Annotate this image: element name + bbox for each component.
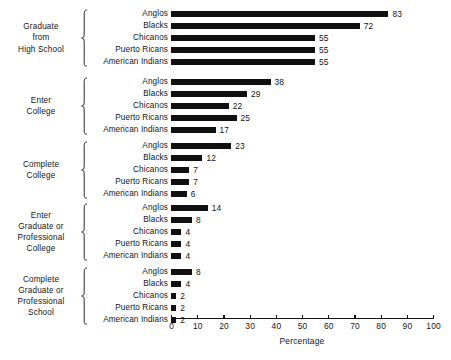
bar-row: American Indians4 (0, 250, 451, 262)
bar (171, 179, 189, 184)
bar-row: Puerto Ricans55 (0, 44, 451, 56)
category-label: American Indians (92, 124, 168, 136)
bar (171, 191, 187, 196)
axis-tick (433, 315, 434, 320)
chart-group: CompleteCollegeAnglos23Blacks12Chicanos7… (0, 140, 451, 200)
axis-tick-label: 30 (245, 321, 255, 332)
bar (171, 91, 247, 96)
bar (171, 23, 360, 28)
bar-chart: GraduatefromHigh SchoolAnglos83Blacks72C… (0, 0, 451, 360)
bar-row: Anglos14 (0, 202, 451, 214)
bar-row: Anglos38 (0, 76, 451, 88)
x-axis-label: Percentage (171, 336, 433, 346)
bar-value-label: 4 (185, 238, 190, 250)
category-label: American Indians (92, 56, 168, 68)
bar-value-label: 2 (180, 302, 185, 314)
category-label: Puerto Ricans (92, 176, 168, 188)
axis-tick-label: 80 (376, 321, 386, 332)
bar-row: American Indians6 (0, 188, 451, 200)
axis-tick (223, 315, 224, 320)
category-label: American Indians (92, 188, 168, 200)
x-axis: 0102030405060708090100 Percentage (0, 318, 451, 360)
axis-tick (197, 315, 198, 320)
bar-value-label: 6 (191, 188, 196, 200)
bar (171, 253, 181, 258)
axis-tick (354, 315, 355, 320)
category-label: Anglos (92, 8, 168, 20)
category-label: Anglos (92, 202, 168, 214)
axis-tick-label: 50 (298, 321, 308, 332)
bar (171, 47, 315, 52)
bar-value-label: 55 (319, 32, 329, 44)
bar-value-label: 2 (180, 290, 185, 302)
bar-value-label: 55 (319, 44, 329, 56)
axis-tick-label: 40 (272, 321, 282, 332)
chart-group: EnterCollegeAnglos38Blacks29Chicanos22Pu… (0, 76, 451, 136)
bar (171, 127, 216, 132)
category-label: Blacks (92, 152, 168, 164)
category-label: Blacks (92, 278, 168, 290)
bar-row: Puerto Ricans4 (0, 238, 451, 250)
axis-tick (250, 315, 251, 320)
bar-value-label: 25 (241, 112, 251, 124)
bar-row: Blacks8 (0, 214, 451, 226)
bar-value-label: 4 (185, 278, 190, 290)
bar (171, 217, 192, 222)
chart-group: EnterGraduate orProfessionalCollegeAnglo… (0, 202, 451, 262)
bar-value-label: 17 (220, 124, 230, 136)
axis-tick (276, 315, 277, 320)
bar-value-label: 72 (364, 20, 374, 32)
bar-row: Chicanos55 (0, 32, 451, 44)
category-label: Chicanos (92, 100, 168, 112)
category-label: Chicanos (92, 290, 168, 302)
bar-row: Anglos8 (0, 266, 451, 278)
axis-tick (328, 315, 329, 320)
category-label: Puerto Ricans (92, 302, 168, 314)
bar-row: Blacks4 (0, 278, 451, 290)
category-label: American Indians (92, 250, 168, 262)
bar-row: Puerto Ricans7 (0, 176, 451, 188)
axis-tick-label: 0 (169, 321, 174, 332)
axis-tick (171, 315, 172, 320)
bar (171, 205, 208, 210)
bar (171, 305, 176, 310)
axis-tick-label: 70 (350, 321, 360, 332)
bar-row: American Indians55 (0, 56, 451, 68)
bar-row: Chicanos7 (0, 164, 451, 176)
category-label: Chicanos (92, 164, 168, 176)
bar-value-label: 22 (233, 100, 243, 112)
bar-value-label: 14 (212, 202, 222, 214)
category-label: Puerto Ricans (92, 112, 168, 124)
bar-value-label: 4 (185, 250, 190, 262)
bar-row: Anglos23 (0, 140, 451, 152)
bar-value-label: 7 (193, 164, 198, 176)
category-label: Puerto Ricans (92, 44, 168, 56)
bar (171, 167, 189, 172)
category-label: Blacks (92, 20, 168, 32)
bar (171, 155, 202, 160)
category-label: Blacks (92, 214, 168, 226)
bar (171, 79, 271, 84)
bar-row: Chicanos2 (0, 290, 451, 302)
bar-value-label: 38 (275, 76, 285, 88)
bar-row: Blacks12 (0, 152, 451, 164)
axis-tick-label: 20 (219, 321, 229, 332)
bar (171, 229, 181, 234)
bar-value-label: 12 (206, 152, 216, 164)
bar-value-label: 23 (235, 140, 245, 152)
bar (171, 115, 237, 120)
bar-row: Blacks29 (0, 88, 451, 100)
bar (171, 143, 231, 148)
axis-tick (407, 315, 408, 320)
bar-row: Chicanos22 (0, 100, 451, 112)
chart-group: CompleteGraduate orProfessionalSchoolAng… (0, 266, 451, 326)
bar-value-label: 7 (193, 176, 198, 188)
bar-value-label: 83 (392, 8, 402, 20)
bar-value-label: 8 (196, 214, 201, 226)
category-label: Anglos (92, 140, 168, 152)
bar-row: Puerto Ricans25 (0, 112, 451, 124)
bar-row: American Indians17 (0, 124, 451, 136)
bar-value-label: 29 (251, 88, 261, 100)
category-label: Anglos (92, 266, 168, 278)
bar-row: Chicanos4 (0, 226, 451, 238)
